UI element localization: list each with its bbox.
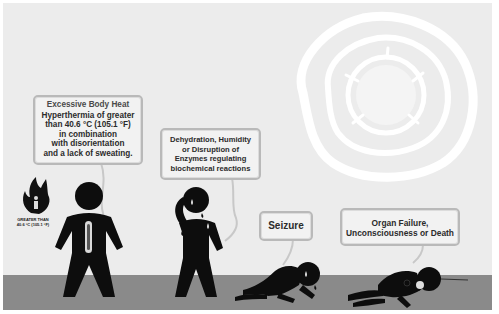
figure-excessive-heat (55, 182, 123, 297)
bubble-line: than 40.6 °C (105.1 °F) (35, 120, 141, 130)
bubble-dehydration: Dehydration, Humidity or Disruption of E… (160, 128, 261, 180)
bubble-line: biochemical reactions (162, 164, 259, 174)
bubble-excessive-body-heat: Excessive Body Heat Hyperthermia of grea… (33, 95, 143, 165)
bubble-heading: Excessive Body Heat (35, 100, 141, 110)
figure-organ-failure (348, 267, 468, 308)
bubble-line: Enzymes regulating (162, 154, 259, 164)
bubble-line: Hyperthermia of greater (35, 111, 141, 121)
bubble-line: in combination (35, 130, 141, 140)
figure-seizure (235, 262, 320, 303)
temperature-label: GREATER THAN 40.6 °C (105.1 °F) (15, 218, 51, 227)
bubble-line: with disorientation (35, 139, 141, 149)
bubble-line: Unconsciousness or Death (342, 228, 458, 238)
flame-person-icon (23, 177, 50, 214)
bubble-line: and a lack of sweating. (35, 149, 141, 159)
bubble-line: Seizure (261, 213, 311, 239)
bubble-organ-failure: Organ Failure, Unconsciousness or Death (340, 208, 460, 246)
bubble-line: or Disruption of (162, 145, 259, 155)
heat-stroke-infographic: Excessive Body Heat Hyperthermia of grea… (3, 3, 492, 310)
bubble-line: Dehydration, Humidity (162, 135, 259, 145)
bubble-line: Organ Failure, (342, 218, 458, 228)
temperature-label-line: 40.6 °C (105.1 °F) (15, 223, 51, 228)
figure-dehydration (175, 187, 223, 297)
bubble-seizure: Seizure (259, 211, 313, 241)
sun-icon (301, 16, 473, 177)
